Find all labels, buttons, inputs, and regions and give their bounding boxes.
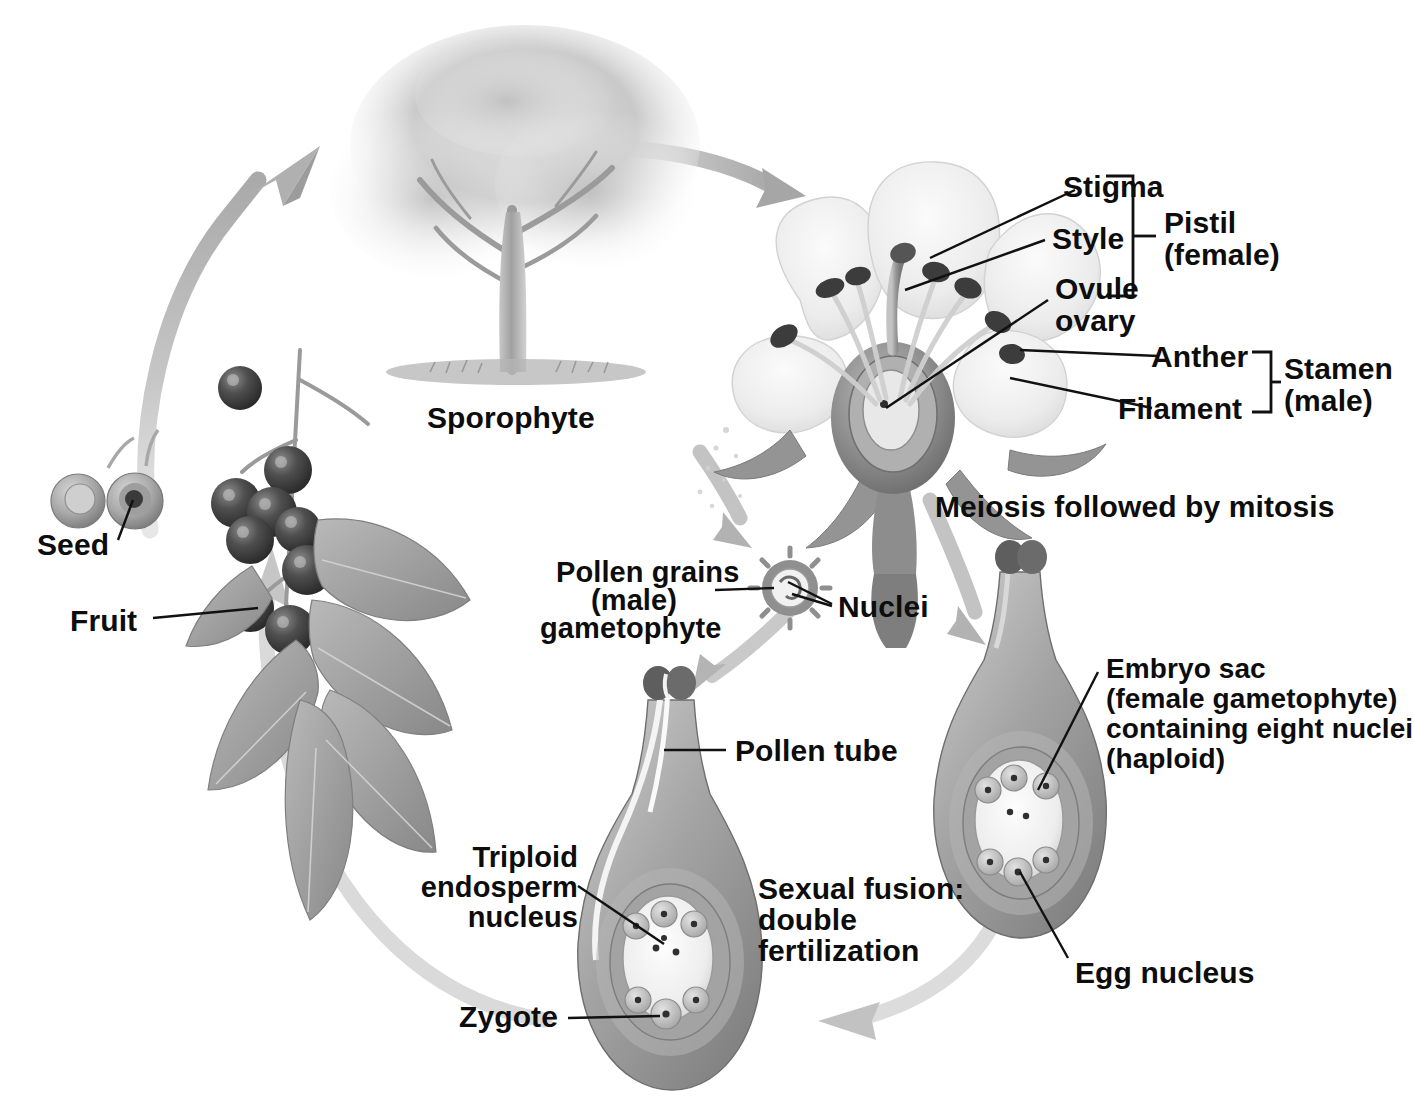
leader-fruit	[153, 608, 258, 618]
label-pollen-tube: Pollen tube	[735, 734, 898, 768]
stamen-bracket	[1252, 352, 1271, 412]
label-meiosis: Meiosis followed by mitosis	[935, 490, 1334, 524]
label-pollen-line3: gametophyte	[540, 612, 712, 644]
label-ovule: Ovule	[1055, 272, 1139, 306]
label-seed: Seed	[37, 528, 109, 562]
label-stamen-line2: (male)	[1284, 384, 1373, 418]
leader-nuclei-1	[788, 582, 832, 604]
label-embryo-sac-line1: Embryo sac	[1106, 653, 1266, 684]
label-egg-nucleus: Egg nucleus	[1075, 956, 1254, 990]
leader-zygote	[568, 1016, 660, 1018]
leader-pollen	[715, 588, 774, 590]
label-embryo-sac-line4: (haploid)	[1106, 743, 1225, 774]
label-embryo-sac-line2: (female gametophyte)	[1106, 683, 1397, 714]
label-triploid-line1: Triploid	[398, 841, 578, 873]
leader-anther	[1020, 350, 1158, 356]
label-filament: Filament	[1118, 392, 1242, 426]
leader-ovule	[886, 300, 1048, 408]
leader-triploid	[578, 886, 664, 944]
label-nuclei: Nuclei	[838, 590, 929, 624]
label-pistil-line1: Pistil	[1164, 206, 1236, 240]
label-triploid-line3: nucleus	[398, 901, 578, 933]
label-sporophyte: Sporophyte	[427, 401, 595, 435]
leader-embryo-sac	[1038, 672, 1098, 790]
label-stamen-line1: Stamen	[1284, 352, 1393, 386]
label-triploid-line2: endosperm	[368, 871, 578, 903]
label-anther: Anther	[1151, 340, 1248, 374]
label-fusion-line1: Sexual fusion:	[758, 872, 964, 906]
label-stigma: Stigma	[1063, 170, 1164, 204]
label-fusion-line3: fertilization	[758, 934, 919, 968]
leader-seed	[118, 500, 133, 540]
label-fusion-line2: double	[758, 903, 857, 937]
label-ovary: ovary	[1055, 304, 1136, 338]
label-zygote: Zygote	[398, 1000, 558, 1034]
leader-egg-nucleus	[1020, 872, 1068, 958]
leader-style	[905, 240, 1045, 290]
label-embryo-sac-line3: containing eight nuclei	[1106, 713, 1413, 744]
label-pistil-line2: (female)	[1164, 238, 1280, 272]
label-style: Style	[1052, 222, 1124, 256]
label-fruit: Fruit	[70, 604, 154, 638]
